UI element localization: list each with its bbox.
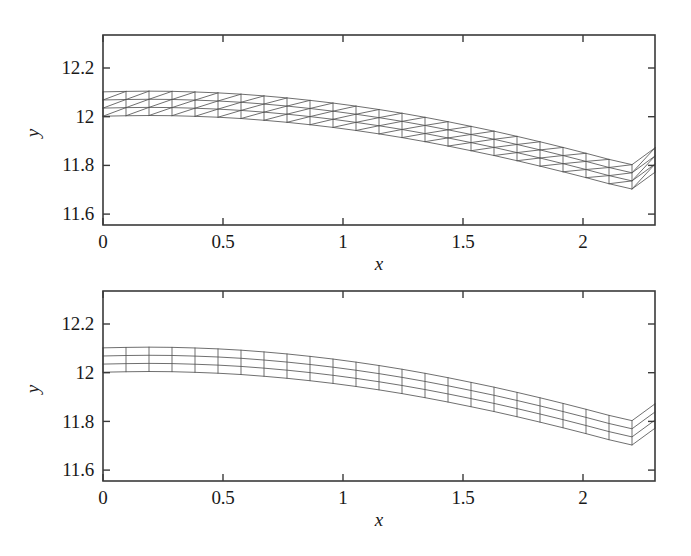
x-axis-label: x xyxy=(375,509,383,531)
x-axis-label: x xyxy=(375,253,383,275)
y-tick-label: 11.6 xyxy=(22,459,94,481)
x-tick-label: 1.5 xyxy=(451,487,474,509)
plot-canvas-bottom xyxy=(0,278,691,556)
x-tick-label: 2 xyxy=(578,487,587,509)
y-tick-label: 12.2 xyxy=(22,57,94,79)
x-tick-label: 0.5 xyxy=(211,487,234,509)
y-tick-label: 12 xyxy=(22,106,94,128)
x-tick-label: 0.5 xyxy=(211,231,234,253)
x-tick-label: 1 xyxy=(338,487,347,509)
y-tick-label: 12.2 xyxy=(22,313,94,335)
y-tick-label: 12 xyxy=(22,362,94,384)
y-tick-label: 11.8 xyxy=(22,154,94,176)
y-tick-label: 11.8 xyxy=(22,411,94,433)
x-tick-label: 1.5 xyxy=(451,231,474,253)
x-tick-label: 1 xyxy=(338,231,347,253)
plot-panel-top: 12.2 12 11.8 11.6 0 0.5 1 1.5 2 y x xyxy=(0,0,691,278)
x-tick-label: 0 xyxy=(98,231,107,253)
x-tick-label: 2 xyxy=(578,231,587,253)
y-axis-label: y xyxy=(22,129,44,137)
y-tick-label: 11.6 xyxy=(22,203,94,225)
x-tick-label: 0 xyxy=(98,487,107,509)
beam-mesh-figure: 12.2 12 11.8 11.6 0 0.5 1 1.5 2 y x 12.2… xyxy=(0,0,691,556)
plot-panel-bottom: 12.2 12 11.8 11.6 0 0.5 1 1.5 2 y x xyxy=(0,278,691,556)
y-axis-label: y xyxy=(22,385,44,393)
